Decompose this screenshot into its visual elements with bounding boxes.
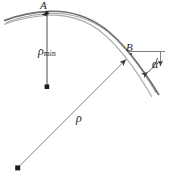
rho-min-subscript: min <box>44 49 56 58</box>
point-b-marker <box>130 53 132 55</box>
trajectory-curve-dark <box>4 11 159 95</box>
trajectory-curve-light <box>4 15 152 97</box>
rho-center-dot <box>15 165 20 170</box>
apex-label: A <box>40 0 47 11</box>
point-b-label: B <box>126 42 133 53</box>
rho-min-label: ρmin <box>38 45 56 58</box>
figure-root: A B α ρmin ρ <box>0 0 173 177</box>
angle-label: α <box>152 58 158 70</box>
curvature-diagram-svg <box>0 0 173 177</box>
rho-label: ρ <box>76 112 82 124</box>
rho-min-center-dot <box>45 84 50 89</box>
trajectory-curve-inner <box>6 13 156 93</box>
apex-dot <box>45 11 48 14</box>
rho-radius-line <box>19 60 127 168</box>
